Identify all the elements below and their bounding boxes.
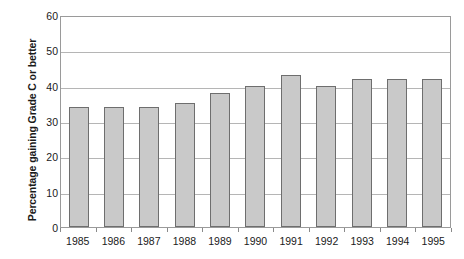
bar[interactable] [210, 93, 230, 227]
y-axis-tick-label: 50 [36, 46, 58, 57]
bar-slot [273, 17, 308, 227]
plot-area [60, 16, 451, 228]
bar[interactable] [422, 79, 442, 227]
x-axis-tick-label: 1992 [309, 234, 345, 250]
x-axis-tick-mark [344, 228, 345, 232]
y-axis-tick-label: 30 [36, 117, 58, 128]
bar-slot [96, 17, 131, 227]
bar-slot [167, 17, 202, 227]
x-axis-tick-label: 1985 [60, 234, 96, 250]
bar[interactable] [281, 75, 301, 227]
x-axis-tick-label: 1995 [415, 234, 451, 250]
bar[interactable] [139, 107, 159, 227]
y-axis-tick-label: 0 [36, 223, 58, 234]
bar-slot [238, 17, 273, 227]
bar-slot [132, 17, 167, 227]
x-axis-tick-label: 1994 [380, 234, 416, 250]
bar[interactable] [69, 107, 89, 227]
x-axis-tick-mark [273, 228, 274, 232]
bar-slot [61, 17, 96, 227]
bar[interactable] [352, 79, 372, 227]
bar[interactable] [104, 107, 124, 227]
bar-series [61, 17, 450, 227]
x-axis-tick-label: 1993 [344, 234, 380, 250]
x-axis-tick-mark [380, 228, 381, 232]
y-axis-tick-label: 60 [36, 11, 58, 22]
y-axis-tick-label: 10 [36, 187, 58, 198]
x-axis-tick-mark [451, 228, 452, 232]
x-axis-tick-label: 1988 [167, 234, 203, 250]
x-axis-tick-label: 1987 [131, 234, 167, 250]
x-axis-tick-label: 1990 [238, 234, 274, 250]
x-axis-tick-label: 1986 [96, 234, 132, 250]
bar-slot [415, 17, 450, 227]
bar-chart-figure: Percentage gaining Grade C or better 010… [0, 0, 464, 259]
x-axis-tick-mark [167, 228, 168, 232]
bar[interactable] [245, 86, 265, 227]
y-axis-tick-label: 40 [36, 81, 58, 92]
bar[interactable] [316, 86, 336, 227]
x-axis-tick-mark [238, 228, 239, 232]
bar-slot [379, 17, 414, 227]
x-axis-tick-mark [202, 228, 203, 232]
x-axis-tick-label: 1989 [202, 234, 238, 250]
bar-slot [202, 17, 237, 227]
bar[interactable] [387, 79, 407, 227]
x-axis-tick-mark [415, 228, 416, 232]
bar-slot [309, 17, 344, 227]
bar-slot [344, 17, 379, 227]
x-axis-tick-mark-group [60, 228, 451, 233]
y-axis-tick-label: 20 [36, 152, 58, 163]
y-axis-tick-label-group: 0102030405060 [36, 16, 58, 228]
x-axis-tick-mark [309, 228, 310, 232]
bar[interactable] [175, 103, 195, 227]
x-axis-tick-mark [96, 228, 97, 232]
x-axis-tick-label: 1991 [273, 234, 309, 250]
x-axis-tick-mark [60, 228, 61, 232]
x-axis-tick-mark [131, 228, 132, 232]
x-axis-tick-label-group: 1985198619871988198919901991199219931994… [60, 234, 451, 250]
